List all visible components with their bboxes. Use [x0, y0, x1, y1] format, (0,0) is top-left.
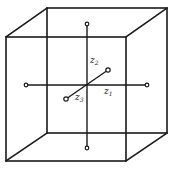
endpoint-z1-right: [145, 83, 149, 87]
endpoint-z3-front: [64, 97, 68, 101]
cube-edge-bottom-left: [6, 133, 47, 161]
endpoint-z2-bottom: [85, 146, 89, 150]
cube-edge-top-right: [126, 8, 167, 37]
cube-edge-bottom-right: [126, 133, 167, 161]
label-z1: z1: [103, 86, 113, 97]
endpoint-z1-left: [24, 83, 28, 87]
label-z3: z3: [74, 92, 84, 103]
label-z2: z2: [89, 55, 99, 66]
cube-edge-top-left: [6, 8, 47, 37]
diagram-canvas: z2 z1 z3: [0, 0, 172, 173]
cube-axes-diagram: z2 z1 z3: [0, 0, 172, 173]
endpoint-z2-top: [85, 22, 89, 26]
endpoint-z3-back: [106, 68, 110, 72]
